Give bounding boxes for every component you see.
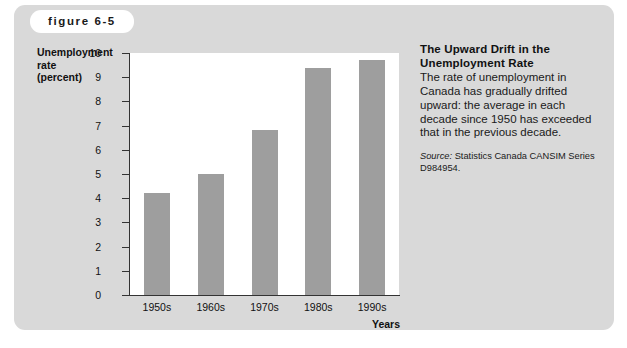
y-axis-tick <box>122 53 129 54</box>
y-axis-tick <box>122 271 129 272</box>
x-axis-tick-label: 1980s <box>290 301 346 313</box>
caption-title: The Upward Drift in the Unemployment Rat… <box>420 43 595 70</box>
x-axis-title: Years <box>330 318 400 330</box>
y-axis-tick-label: 9 <box>79 72 101 82</box>
x-axis-tick-label: 1950s <box>129 301 185 313</box>
y-axis-tick-label: 6 <box>79 145 101 155</box>
bar <box>198 174 224 295</box>
y-axis-tick-label: 5 <box>79 169 101 179</box>
y-axis-tick <box>122 247 129 248</box>
bar <box>359 60 385 295</box>
y-axis-tick <box>122 198 129 199</box>
bars-layer <box>130 53 399 295</box>
y-axis-tick-label: 8 <box>79 96 101 106</box>
figure-number-tab: figure 6-5 <box>30 10 134 33</box>
y-axis-tick <box>122 101 129 102</box>
caption-block: The Upward Drift in the Unemployment Rat… <box>420 43 595 174</box>
caption-title-line1: The Upward Drift in the <box>420 43 595 57</box>
y-axis-tick-label: 0 <box>79 290 101 300</box>
y-axis-title-line2: rate <box>37 59 129 72</box>
bar <box>252 130 278 295</box>
bar <box>305 68 331 295</box>
caption-source: Source: Statistics Canada CANSIM Series … <box>420 151 595 174</box>
figure-number-label: figure 6-5 <box>30 10 134 33</box>
figure-container: figure 6-5 Unemployment rate (percent) 0… <box>0 0 627 348</box>
y-axis-tick-label: 10 <box>79 48 101 58</box>
x-axis-line <box>129 295 400 296</box>
y-axis-tick <box>122 222 129 223</box>
x-axis-tick-label: 1970s <box>237 301 293 313</box>
y-axis-tick-label: 4 <box>79 193 101 203</box>
y-axis-tick <box>122 295 129 296</box>
y-axis-tick <box>122 150 129 151</box>
y-axis-tick-label: 1 <box>79 266 101 276</box>
y-axis-tick <box>122 174 129 175</box>
y-axis-tick <box>122 77 129 78</box>
y-axis-tick <box>122 126 129 127</box>
caption-body: The rate of unemployment in Canada has g… <box>420 71 595 140</box>
x-axis-tick-label: 1960s <box>183 301 239 313</box>
y-axis-tick-label: 2 <box>79 242 101 252</box>
x-axis-tick-label: 1990s <box>344 301 400 313</box>
y-axis-tick-label: 3 <box>79 217 101 227</box>
caption-title-line2: Unemployment Rate <box>420 57 595 71</box>
bar <box>144 193 170 295</box>
source-label: Source: <box>420 151 452 161</box>
y-axis-tick-label: 7 <box>79 121 101 131</box>
